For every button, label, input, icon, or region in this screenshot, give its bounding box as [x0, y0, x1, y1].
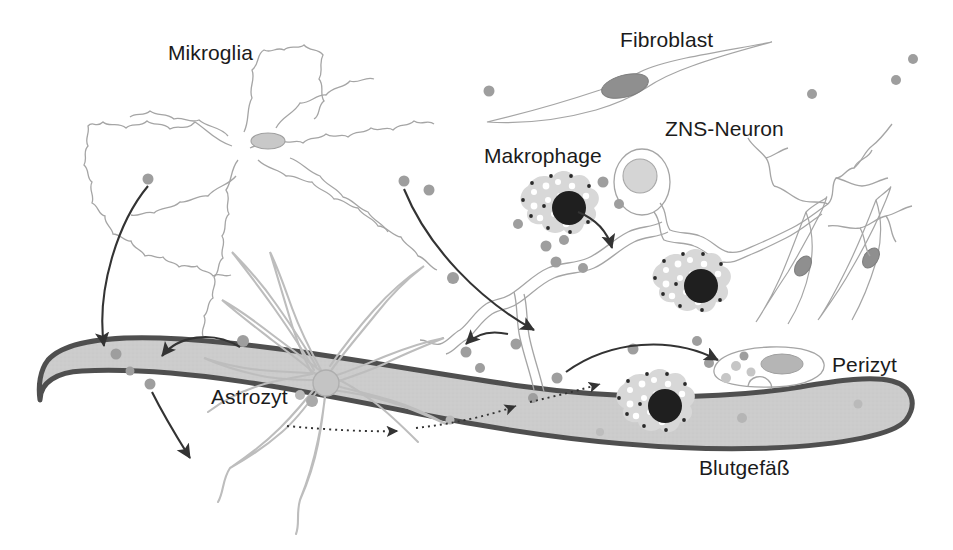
label-perizyt: Perizyt	[832, 354, 897, 375]
label-fibroblast: Fibroblast	[620, 29, 713, 50]
label-astrozyt: Astrozyt	[211, 386, 288, 407]
arrow-mikroglia-to-vessel	[102, 186, 148, 346]
fibroblast-cell-1	[487, 42, 772, 123]
diagram-canvas: Mikroglia Fibroblast ZNS-Neuron Makropha…	[0, 0, 953, 550]
perizyt-cell	[714, 347, 824, 389]
label-zns-neuron: ZNS-Neuron	[665, 118, 784, 139]
diagram-graphics	[0, 0, 953, 550]
makrophage-cell-2	[653, 249, 731, 312]
makrophage-cell-1	[521, 171, 599, 234]
arrow-into-vessel	[152, 392, 190, 458]
fibroblast-cell-2	[756, 197, 827, 324]
dotted-arrow-1	[287, 426, 398, 431]
fibroblast-cell-3	[818, 187, 891, 320]
mikroglia-cell	[84, 45, 437, 336]
arrow-to-perizyt	[566, 345, 718, 372]
label-blutgefaess: Blutgefäß	[699, 457, 790, 478]
label-makrophage: Makrophage	[484, 145, 602, 166]
label-mikroglia: Mikroglia	[168, 42, 253, 63]
